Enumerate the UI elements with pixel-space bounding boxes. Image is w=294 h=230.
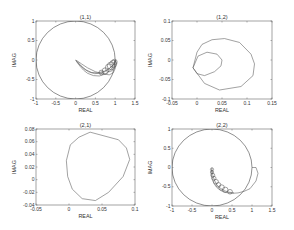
y-tick-label: 0.1 <box>164 18 171 24</box>
subplot-title: (2,2) <box>216 122 228 128</box>
x-axis-label: REAL <box>215 214 229 220</box>
x-tick-label: -0.5 <box>188 207 197 213</box>
x-tick-label: 0 <box>211 207 214 213</box>
subplot-title: (1,2) <box>216 14 228 20</box>
y-tick-label: 0.04 <box>25 151 35 157</box>
x-tick-label: 0.05 <box>217 100 227 106</box>
y-tick-label: -1 <box>166 203 171 209</box>
y-tick-label: 0.02 <box>25 164 35 170</box>
x-tick-label: 1.5 <box>269 207 276 213</box>
subplot-title: (1,1) <box>80 14 92 20</box>
y-axis-label: IMAG <box>147 161 153 175</box>
y-tick-label: 0.5 <box>164 145 171 151</box>
axes-box <box>36 129 135 205</box>
x-tick-label: 0.1 <box>132 206 139 212</box>
x-tick-label: 0.15 <box>267 100 277 106</box>
x-tick-label: 1 <box>114 100 117 106</box>
y-tick-label: 0.05 <box>161 37 171 43</box>
y-tick-label: 0 <box>32 176 35 182</box>
y-tick-label: 0.08 <box>25 126 35 132</box>
y-tick-label: 0.06 <box>25 138 35 144</box>
y-axis-label: IMAG <box>147 53 153 67</box>
x-tick-label: -0.5 <box>51 100 60 106</box>
subplot-title: (2,1) <box>80 122 92 128</box>
y-tick-label: 0 <box>168 57 171 63</box>
x-tick-label: 0.1 <box>244 100 251 106</box>
y-tick-label: 0 <box>168 164 171 170</box>
x-tick-label: 1 <box>251 207 254 213</box>
y-tick-label: -1 <box>30 96 35 102</box>
x-tick-label: 0 <box>74 100 77 106</box>
figure-canvas: -1-0.500.511.5-1-0.500.51(1,1)REALIMAG-0… <box>0 0 294 230</box>
x-tick-label: 1.5 <box>132 100 139 106</box>
x-axis-label: REAL <box>78 107 92 113</box>
y-tick-label: 0 <box>32 57 35 63</box>
axes-box <box>36 21 135 99</box>
x-axis-label: REAL <box>78 213 92 219</box>
subplot-p12: -0.0500.050.10.15-0.1-0.0500.050.1(1,2)R… <box>147 14 277 114</box>
x-tick-label: 0 <box>196 100 199 106</box>
y-tick-label: -0.5 <box>26 76 35 82</box>
y-tick-label: -0.1 <box>162 96 171 102</box>
x-tick-label: 0.5 <box>92 100 99 106</box>
y-tick-label: -0.02 <box>23 189 35 195</box>
x-tick-label: 0 <box>68 206 71 212</box>
y-axis-label: IMAG <box>11 160 17 174</box>
y-tick-label: 1 <box>32 18 35 24</box>
y-tick-label: 0.5 <box>28 37 35 43</box>
subplot-p21: -0.0500.050.1-0.04-0.0200.020.040.060.08… <box>11 122 139 220</box>
x-tick-label: 0.05 <box>97 206 107 212</box>
y-tick-label: -0.04 <box>23 202 35 208</box>
y-tick-label: -0.5 <box>162 183 171 189</box>
subplot-p22: -1-0.500.511.5-1-0.500.51(2,2)REALIMAG <box>147 122 276 221</box>
y-tick-label: 1 <box>168 126 171 132</box>
x-tick-label: 0.5 <box>229 207 236 213</box>
axes-box <box>172 129 272 206</box>
x-axis-label: REAL <box>215 107 229 113</box>
subplot-p11: -1-0.500.511.5-1-0.500.51(1,1)REALIMAG <box>11 14 139 114</box>
y-axis-label: IMAG <box>11 53 17 67</box>
y-tick-label: -0.05 <box>159 76 171 82</box>
